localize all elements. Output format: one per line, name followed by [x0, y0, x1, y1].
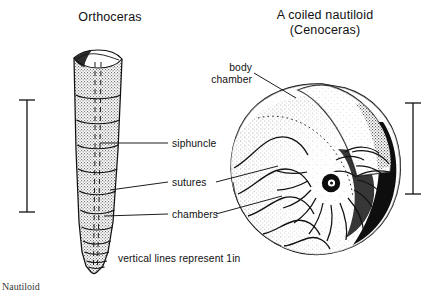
figure-container: Orthoceras A coiled nautiloid (Cenoceras… — [0, 0, 434, 291]
title-nautiloid-line2: (Cenoceras) — [249, 23, 401, 38]
label-body-chamber: body chamber — [196, 62, 252, 85]
title-orthoceras: Orthoceras — [52, 10, 168, 25]
caption-scale-note: vertical lines represent 1in — [118, 253, 240, 264]
scale-bar-left — [19, 100, 35, 212]
leader-sutures-left — [110, 182, 168, 190]
label-body-chamber-line2: chamber — [196, 74, 252, 86]
label-body-chamber-line1: body — [196, 62, 252, 74]
nautiloid-siphuncle-dot — [330, 182, 333, 185]
label-siphuncle: siphuncle — [172, 138, 216, 150]
label-sutures: sutures — [172, 177, 206, 189]
title-nautiloid: A coiled nautiloid (Cenoceras) — [249, 8, 401, 37]
orthoceras-illustration — [70, 50, 130, 280]
title-nautiloid-line1: A coiled nautiloid — [249, 8, 401, 23]
scale-bar-right — [405, 103, 421, 194]
footer-cut-off-text: Nautiloid — [2, 281, 40, 291]
label-chambers: chambers — [172, 209, 218, 221]
orthoceras-apex — [91, 272, 97, 274]
illustration-canvas — [0, 0, 434, 291]
